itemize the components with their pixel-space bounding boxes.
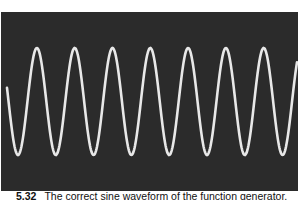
oscilloscope-photo	[1, 12, 298, 191]
caption-text: The correct sine waveform of the functio…	[44, 190, 287, 200]
figure: 5.32The correct sine waveform of the fun…	[0, 0, 303, 200]
sine-waveform-trace	[1, 12, 298, 191]
figure-number: 5.32	[16, 190, 36, 200]
figure-caption: 5.32The correct sine waveform of the fun…	[16, 190, 303, 200]
